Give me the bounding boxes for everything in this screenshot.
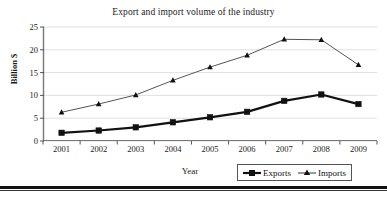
x-axis-tick-label: 2007 <box>264 145 304 154</box>
plot-area <box>43 27 377 141</box>
y-axis-tick-labels: 0510152025 <box>6 0 38 180</box>
page-separator-rule-thin <box>0 190 387 191</box>
triangle-marker-icon <box>298 168 316 178</box>
x-axis-tick-label: 2004 <box>153 145 193 154</box>
data-point-marker <box>356 101 361 106</box>
legend-label-exports: Exports <box>263 168 291 178</box>
data-point-marker <box>207 115 212 120</box>
series-line-exports <box>62 94 359 132</box>
x-axis-title: Year <box>150 166 230 176</box>
data-point-marker <box>356 62 362 67</box>
y-axis-tick-label: 0 <box>12 137 38 146</box>
data-point-marker <box>170 120 175 125</box>
x-axis-tick-label: 2001 <box>42 145 82 154</box>
x-axis-tick-label: 2002 <box>79 145 119 154</box>
data-point-marker <box>244 109 249 114</box>
x-axis-tick-labels: 200120022003200420052006200720082009 <box>43 145 377 159</box>
series-line-imports <box>62 39 359 112</box>
chart-legend: Exports Imports <box>237 164 352 181</box>
y-axis-tick-label: 25 <box>12 23 38 32</box>
chart-title: Export and import volume of the industry <box>0 7 387 17</box>
x-axis-tick-label: 2005 <box>190 145 230 154</box>
data-point-marker <box>133 125 138 130</box>
data-point-marker <box>319 92 324 97</box>
data-point-marker <box>282 98 287 103</box>
y-axis-tick-label: 20 <box>12 46 38 55</box>
chart-figure: Export and import volume of the industry… <box>0 0 387 180</box>
x-axis-tick-label: 2008 <box>301 145 341 154</box>
plot-svg <box>43 27 377 141</box>
data-point-marker <box>59 130 64 135</box>
data-point-marker <box>96 128 101 133</box>
legend-item-imports: Imports <box>298 168 346 178</box>
y-axis-tick-label: 10 <box>12 91 38 100</box>
x-axis-tick-label: 2006 <box>227 145 267 154</box>
legend-label-imports: Imports <box>318 168 346 178</box>
legend-item-exports: Exports <box>243 168 291 178</box>
page-separator-rule <box>0 186 387 189</box>
y-axis-tick-label: 5 <box>12 114 38 123</box>
data-series-layer <box>59 36 361 135</box>
square-marker-icon <box>243 168 261 178</box>
y-axis-tick-label: 15 <box>12 69 38 78</box>
x-axis-tick-label: 2003 <box>116 145 156 154</box>
x-axis-tick-label: 2009 <box>338 145 378 154</box>
